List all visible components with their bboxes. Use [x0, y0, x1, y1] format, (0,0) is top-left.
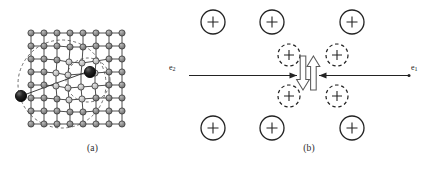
deformation-ellipse-small — [66, 58, 110, 102]
electron-e2-trajectory — [189, 73, 297, 79]
electron-e1-trajectory — [319, 73, 411, 79]
ion-top-left-1 — [201, 10, 225, 34]
lattice-nodes — [28, 30, 125, 127]
electron-label-e2: e2 — [169, 63, 176, 72]
ion-bot-right-1 — [340, 116, 364, 140]
ion-displaced-bot-right — [326, 85, 348, 107]
ion-displaced-bot-left — [278, 85, 300, 107]
ion-displaced-top-left — [278, 44, 300, 66]
ion-bot-left-1 — [201, 116, 225, 140]
ion-top-right-1 — [340, 10, 364, 34]
polaron-right — [84, 66, 95, 77]
polaron-left — [15, 90, 26, 101]
figure-container: e2 e1 (a) (b) — [0, 0, 433, 170]
caption-panel-b: (b) — [185, 143, 433, 153]
spin-arrows — [297, 56, 320, 90]
ion-bot-left-2 — [260, 116, 284, 140]
ion-top-left-2 — [260, 10, 284, 34]
spin-up-arrow — [307, 56, 320, 90]
caption-panel-a: (a) — [0, 143, 185, 153]
ion-displaced-top-right — [326, 44, 348, 66]
electron-label-e1: e1 — [411, 63, 418, 72]
